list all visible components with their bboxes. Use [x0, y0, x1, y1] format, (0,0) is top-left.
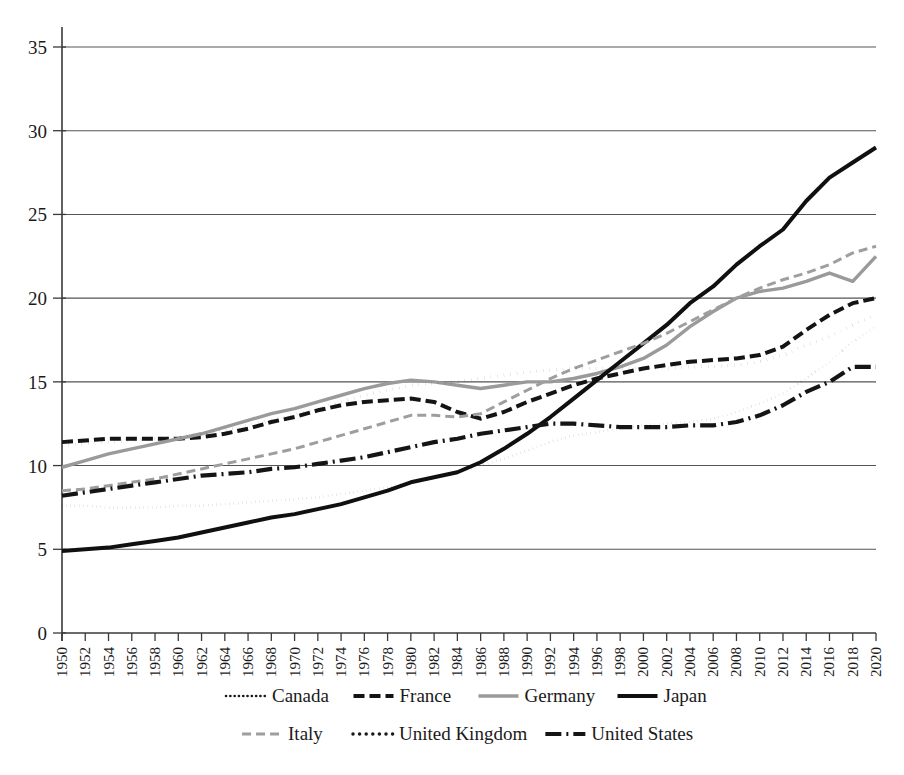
x-tick-label: 1980 — [403, 647, 419, 677]
x-tick-label: 2018 — [845, 647, 861, 677]
y-tick-label: 15 — [28, 372, 47, 393]
y-axis: 05101520253035 — [28, 27, 66, 644]
y-tick-label: 10 — [28, 456, 47, 477]
x-tick-label: 2010 — [752, 647, 768, 677]
x-tick-label: 1952 — [77, 647, 93, 677]
x-tick-label: 2000 — [635, 647, 651, 677]
x-tick-label: 1962 — [194, 647, 210, 677]
series-line-united-kingdom — [62, 315, 876, 446]
x-tick-label: 1972 — [310, 647, 326, 677]
x-tick-label: 1966 — [240, 647, 256, 678]
line-chart: 05101520253035 1950195219541956195819601… — [0, 0, 904, 775]
legend-label-france: France — [400, 685, 452, 706]
x-tick-label: 1984 — [449, 647, 465, 678]
x-tick-label: 1964 — [217, 647, 233, 678]
series-line-italy — [62, 246, 876, 490]
x-axis: 1950195219541956195819601962196419661968… — [54, 633, 884, 677]
y-tick-label: 5 — [38, 539, 48, 560]
x-tick-label: 1990 — [519, 647, 535, 677]
x-tick-label: 2016 — [821, 647, 837, 678]
x-tick-label: 1974 — [333, 647, 349, 678]
x-tick-label: 1982 — [426, 647, 442, 677]
x-tick-label: 2006 — [705, 647, 721, 678]
y-tick-label: 30 — [28, 121, 47, 142]
legend-label-canada: Canada — [272, 685, 330, 706]
legend-label-japan: Japan — [664, 685, 708, 706]
x-tick-label: 1994 — [566, 647, 582, 678]
x-tick-label: 1954 — [101, 647, 117, 678]
x-tick-label: 1958 — [147, 647, 163, 677]
y-tick-label: 25 — [28, 204, 47, 225]
x-tick-label: 2014 — [798, 647, 814, 678]
x-tick-label: 1978 — [380, 647, 396, 677]
x-tick-label: 1970 — [287, 647, 303, 677]
chart-container: 05101520253035 1950195219541956195819601… — [0, 0, 904, 775]
series-line-france — [62, 298, 876, 442]
legend-label-italy: Italy — [288, 723, 323, 744]
x-tick-label: 1986 — [473, 647, 489, 678]
x-tick-label: 1976 — [356, 647, 372, 678]
legend-label-united-kingdom: United Kingdom — [399, 723, 527, 744]
x-tick-label: 1996 — [589, 647, 605, 678]
x-tick-label: 1988 — [496, 647, 512, 677]
y-tick-label: 20 — [28, 288, 47, 309]
data-series — [62, 147, 876, 551]
y-tick-label: 0 — [38, 623, 48, 644]
gridlines — [62, 47, 876, 633]
x-tick-label: 1992 — [542, 647, 558, 677]
x-tick-label: 1960 — [170, 647, 186, 677]
x-tick-label: 2008 — [728, 647, 744, 677]
series-line-germany — [62, 256, 876, 467]
x-tick-label: 2002 — [659, 647, 675, 677]
x-tick-label: 2020 — [868, 647, 884, 677]
x-tick-label: 1950 — [54, 647, 70, 677]
x-tick-label: 2012 — [775, 647, 791, 677]
x-tick-label: 2004 — [682, 647, 698, 678]
y-tick-label: 35 — [28, 37, 47, 58]
legend-label-united-states: United States — [591, 723, 693, 744]
x-tick-label: 1998 — [612, 647, 628, 677]
x-tick-label: 1968 — [263, 647, 279, 677]
series-line-japan — [62, 147, 876, 551]
chart-legend: CanadaFranceGermanyJapanItalyUnited King… — [226, 685, 707, 744]
x-tick-label: 1956 — [124, 647, 140, 678]
series-line-canada — [62, 327, 876, 508]
legend-label-germany: Germany — [525, 685, 596, 706]
